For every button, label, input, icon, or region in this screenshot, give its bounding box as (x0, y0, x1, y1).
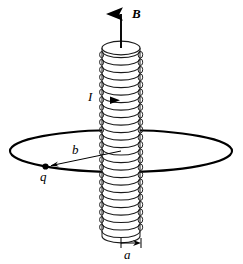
charge-label: q (40, 170, 47, 183)
magnetic-field-label: B (132, 7, 141, 20)
solenoid-group (100, 41, 143, 243)
solenoid-radius-label: a (124, 248, 131, 261)
diagram-canvas (0, 0, 243, 264)
current-label: I (88, 90, 92, 103)
loop-radius-label: b (72, 143, 79, 156)
physics-diagram-solenoid: B I b q a (0, 0, 243, 264)
